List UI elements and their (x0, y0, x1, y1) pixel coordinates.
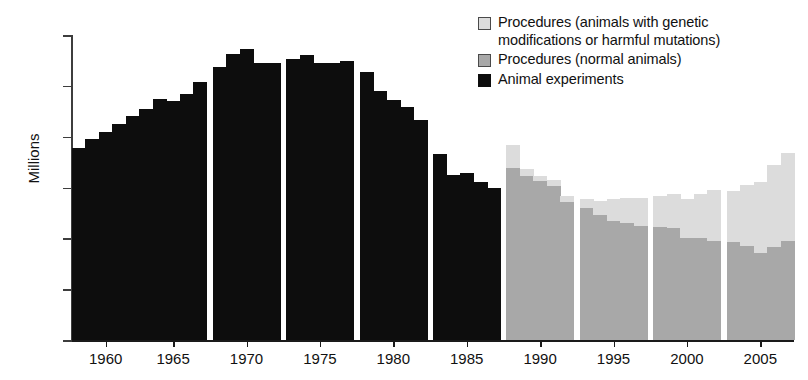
bar-1986 (473, 182, 487, 340)
bar-segment-animal-1962 (126, 116, 140, 340)
bar-1964 (153, 99, 167, 340)
x-tick-label-1995: 1995 (584, 350, 644, 367)
bar-1983 (433, 154, 447, 340)
bar-2006 (767, 165, 781, 340)
x-tick-label-1970: 1970 (217, 350, 277, 367)
y-tick-5 (63, 86, 72, 88)
bar-1981 (400, 107, 414, 340)
x-axis-line (71, 340, 794, 342)
bar-1973 (286, 59, 300, 340)
bar-segment-procedures-1988 (506, 168, 520, 340)
bar-segment-procedures-1994 (593, 215, 607, 340)
bar-segment-procedures-2006 (767, 247, 781, 340)
bar-1962 (126, 116, 140, 340)
bar-segment-procedures-2004 (740, 185, 754, 246)
bar-1979 (373, 91, 387, 340)
bar-segment-procedures-1994 (593, 201, 607, 215)
bar-segment-animal-1979 (373, 91, 387, 340)
x-tick-1980 (393, 340, 395, 347)
bar-segment-animal-1958 (72, 148, 86, 340)
bar-1987 (487, 188, 501, 341)
bar-1972 (267, 63, 281, 340)
bar-2007 (781, 153, 795, 340)
bar-1965 (166, 101, 180, 340)
bar-segment-animal-1961 (112, 124, 126, 340)
bar-1980 (387, 100, 401, 340)
bar-segment-procedures-1992 (560, 202, 574, 340)
y-tick-4 (63, 137, 72, 139)
x-tick-1995 (614, 340, 616, 347)
x-tick-1965 (173, 340, 175, 347)
bar-segment-procedures-1998 (653, 227, 667, 340)
bar-segment-animal-1968 (213, 67, 227, 340)
bar-1960 (99, 132, 113, 340)
x-tick-label-1975: 1975 (290, 350, 350, 367)
bar-1961 (112, 124, 126, 340)
bar-segment-procedures-2006 (767, 165, 781, 247)
bar-2003 (727, 191, 741, 340)
bar-segment-animal-1960 (99, 132, 113, 340)
bar-1993 (580, 199, 594, 340)
bar-1995 (607, 199, 621, 340)
bar-segment-procedures-2002 (707, 241, 721, 340)
bar-1975 (313, 63, 327, 340)
bar-segment-procedures-1989 (520, 169, 534, 177)
bar-segment-procedures-2007 (781, 153, 795, 240)
bar-segment-animal-1978 (360, 72, 374, 340)
y-axis-title: Millions (25, 104, 42, 214)
x-tick-label-1980: 1980 (363, 350, 423, 367)
bar-segment-animal-1974 (300, 55, 314, 340)
bar-1976 (327, 63, 341, 340)
bar-1988 (506, 145, 520, 340)
bar-segment-procedures-1997 (634, 198, 648, 226)
bar-segment-animal-1981 (400, 107, 414, 340)
bar-segment-procedures-1990 (533, 176, 547, 181)
x-tick-1960 (106, 340, 108, 347)
bar-segment-animal-1984 (446, 175, 460, 340)
bar-segment-procedures-1997 (634, 226, 648, 340)
plot-area: 0123456 19601965197019751980198519901995… (72, 35, 794, 340)
bar-segment-procedures-1995 (607, 221, 621, 340)
bar-segment-procedures-1992 (560, 196, 574, 202)
bar-segment-animal-1964 (153, 99, 167, 340)
bar-1997 (634, 198, 648, 340)
x-tick-1985 (467, 340, 469, 347)
bar-1982 (414, 120, 428, 340)
x-tick-label-1990: 1990 (510, 350, 570, 367)
bar-1966 (180, 94, 194, 340)
bar-1996 (620, 198, 634, 340)
bar-1968 (213, 67, 227, 340)
bar-2005 (754, 182, 768, 340)
y-tick-2 (63, 238, 72, 240)
bar-1958 (72, 148, 86, 340)
bar-segment-procedures-2003 (727, 191, 741, 243)
x-tick-label-1985: 1985 (437, 350, 497, 367)
x-tick-label-2005: 2005 (730, 350, 790, 367)
bar-segment-procedures-1998 (653, 196, 667, 228)
bar-1991 (547, 180, 561, 340)
x-tick-label-1960: 1960 (76, 350, 136, 367)
bar-segment-procedures-2000 (680, 238, 694, 340)
bar-segment-procedures-2005 (754, 253, 768, 340)
bar-segment-animal-1969 (226, 54, 240, 340)
bar-segment-procedures-1996 (620, 223, 634, 340)
bar-1978 (360, 72, 374, 340)
bar-segment-animal-1971 (253, 63, 267, 340)
bar-1971 (253, 63, 267, 340)
bar-1974 (300, 55, 314, 340)
bar-segment-animal-1966 (180, 94, 194, 340)
bar-segment-animal-1986 (473, 182, 487, 340)
bar-segment-animal-1975 (313, 63, 327, 340)
bar-segment-procedures-1991 (547, 186, 561, 340)
bar-segment-procedures-1990 (533, 181, 547, 340)
bar-segment-animal-1976 (327, 63, 341, 340)
x-tick-1970 (247, 340, 249, 347)
bar-segment-procedures-1989 (520, 176, 534, 340)
bar-segment-procedures-2005 (754, 182, 768, 252)
bar-segment-animal-1959 (85, 139, 99, 340)
bar-1992 (560, 196, 574, 340)
x-tick-2005 (760, 340, 762, 347)
bar-segment-animal-1973 (286, 59, 300, 340)
bar-1984 (446, 175, 460, 340)
light-gray-swatch (478, 17, 491, 30)
